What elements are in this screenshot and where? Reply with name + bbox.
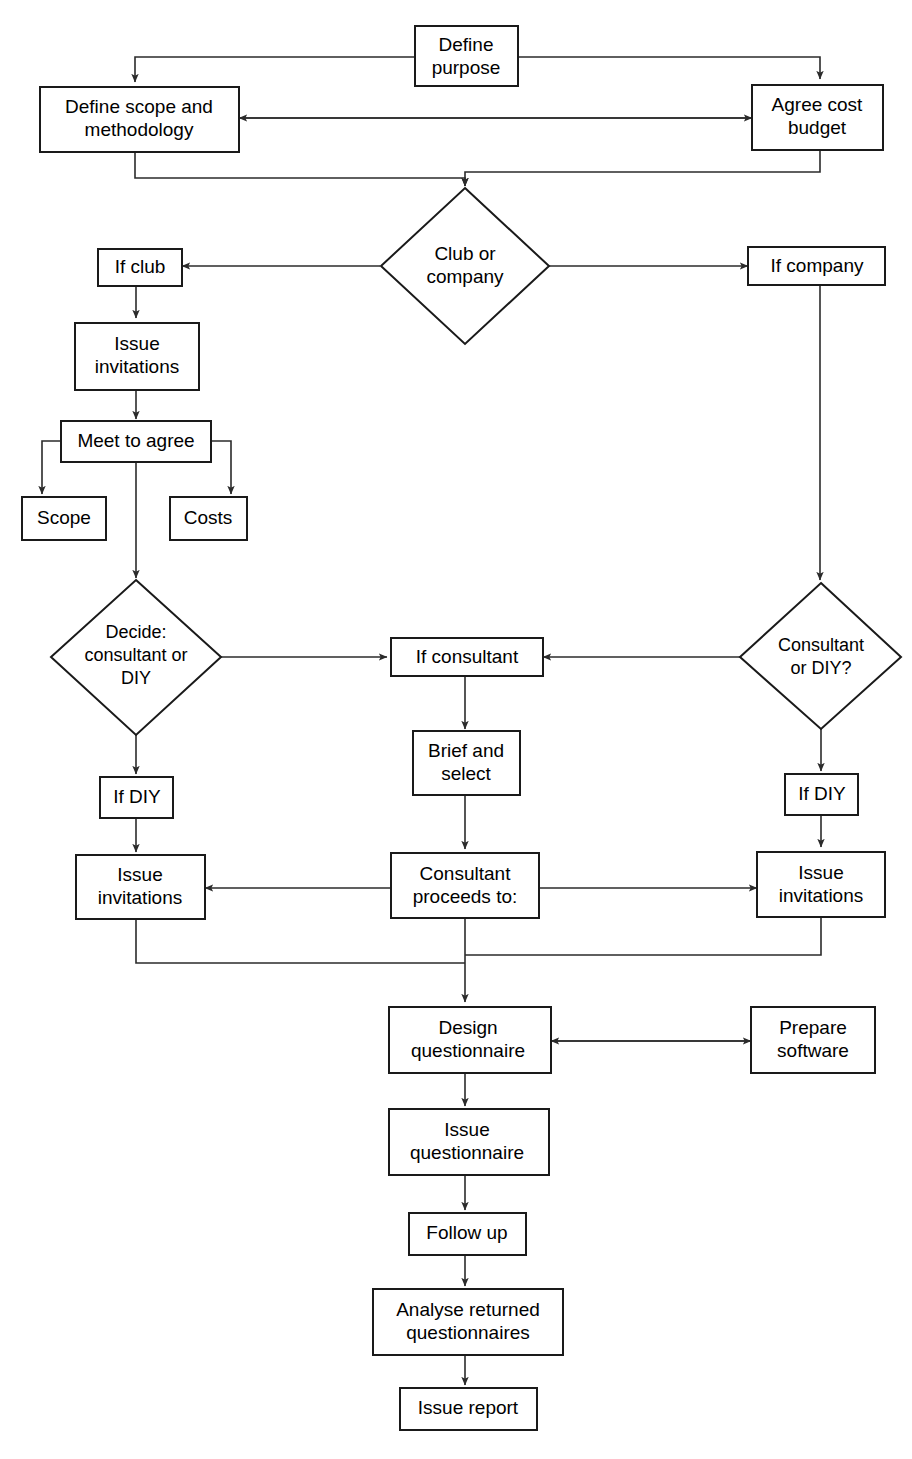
node-issue-invitations-club[interactable]: Issue invitations <box>75 323 199 390</box>
node-if-club[interactable]: If club <box>98 249 182 286</box>
node-prepare-software[interactable]: Prepare software <box>751 1007 875 1073</box>
node-scope[interactable]: Scope <box>22 497 106 540</box>
edge-issue-invitations-right-to-design-questionnaire <box>465 917 821 955</box>
node-if-diy-right[interactable]: If DIY <box>785 774 858 815</box>
edge-define-purpose-to-define-scope <box>135 57 415 82</box>
node-club-or-company[interactable]: Club or company <box>381 188 549 344</box>
edge-issue-invitations-left-to-design-questionnaire <box>136 918 465 963</box>
node-follow-up[interactable]: Follow up <box>409 1213 526 1255</box>
node-brief-and-select[interactable]: Brief and select <box>413 731 520 795</box>
node-if-company[interactable]: If company <box>748 247 885 285</box>
node-issue-report[interactable]: Issue report <box>400 1388 537 1430</box>
node-analyse-returned[interactable]: Analyse returned questionnaires <box>373 1289 563 1355</box>
flowchart-canvas: Define purpose Define scope and methodol… <box>0 0 912 1459</box>
node-agree-cost-budget[interactable]: Agree cost budget <box>752 85 883 150</box>
node-consultant-or-diy[interactable]: Consultant or DIY? <box>740 583 901 729</box>
node-design-questionnaire[interactable]: Design questionnaire <box>389 1007 551 1073</box>
node-if-consultant[interactable]: If consultant <box>391 638 543 676</box>
edge-meet-to-agree-to-costs <box>210 441 231 494</box>
edge-define-scope-to-club-or-company <box>135 152 465 186</box>
node-layer: Define purpose Define scope and methodol… <box>22 26 901 1430</box>
node-issue-invitations-left[interactable]: Issue invitations <box>76 855 205 919</box>
edge-define-purpose-to-agree-cost <box>518 57 820 79</box>
node-costs[interactable]: Costs <box>170 497 247 540</box>
node-if-diy-left[interactable]: If DIY <box>100 777 173 818</box>
node-define-scope-methodology[interactable]: Define scope and methodology <box>40 87 239 152</box>
edge-agree-cost-to-club-or-company <box>465 150 820 186</box>
node-define-purpose[interactable]: Define purpose <box>415 26 518 86</box>
node-issue-questionnaire[interactable]: Issue questionnaire <box>389 1109 549 1175</box>
node-consultant-proceeds-to[interactable]: Consultant proceeds to: <box>391 853 539 918</box>
node-decide-consultant-or-diy[interactable]: Decide: consultant or DIY <box>51 580 221 735</box>
node-issue-invitations-right[interactable]: Issue invitations <box>757 852 885 917</box>
node-meet-to-agree[interactable]: Meet to agree <box>61 421 211 462</box>
flowchart-svg: Define purpose Define scope and methodol… <box>0 0 912 1459</box>
